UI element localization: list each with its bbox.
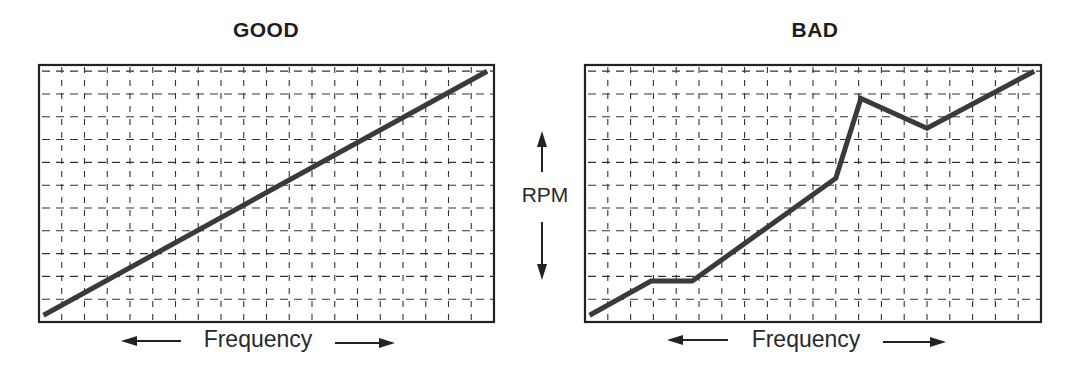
bad-response-line — [590, 71, 1035, 315]
bad-chart — [585, 65, 1041, 322]
y-up-arrow-icon — [537, 131, 547, 172]
good-x-axis-label: Frequency — [158, 326, 358, 353]
y-down-arrow-icon — [537, 222, 547, 280]
y-axis-label: RPM — [512, 183, 578, 207]
bad-x-axis-label: Frequency — [706, 326, 906, 353]
good-chart — [39, 65, 494, 322]
good-response-line — [44, 71, 488, 315]
